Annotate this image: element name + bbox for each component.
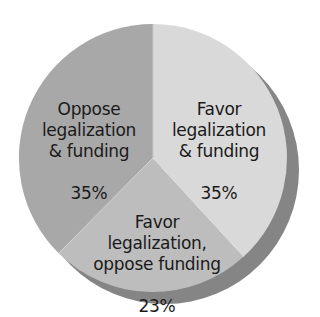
label-text: Favor legalization, oppose funding bbox=[93, 212, 221, 274]
label-oppose-legalization-and-funding: Oppose legalization & funding 35% bbox=[30, 78, 148, 204]
label-favor-legalization-and-funding: Favor legalization & funding 35% bbox=[163, 78, 275, 204]
label-text: Favor legalization & funding bbox=[172, 99, 266, 161]
label-percent: 23% bbox=[139, 296, 176, 316]
label-favor-legalization-oppose-funding: Favor legalization, oppose funding 23% bbox=[88, 191, 226, 317]
label-text: Oppose legalization & funding bbox=[42, 99, 136, 161]
